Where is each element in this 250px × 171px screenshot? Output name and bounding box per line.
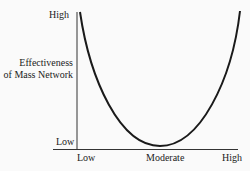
y-axis-label-line2: of Mass Network — [3, 69, 73, 80]
x-tick-high: High — [222, 152, 242, 163]
y-tick-low: Low — [56, 136, 74, 147]
x-tick-low: Low — [77, 152, 95, 163]
x-tick-moderate: Moderate — [146, 152, 184, 163]
y-axis-label-line1: Effectiveness — [13, 57, 73, 68]
y-tick-high: High — [49, 9, 69, 20]
effectiveness-curve — [80, 11, 240, 146]
chart-canvas — [0, 0, 250, 171]
